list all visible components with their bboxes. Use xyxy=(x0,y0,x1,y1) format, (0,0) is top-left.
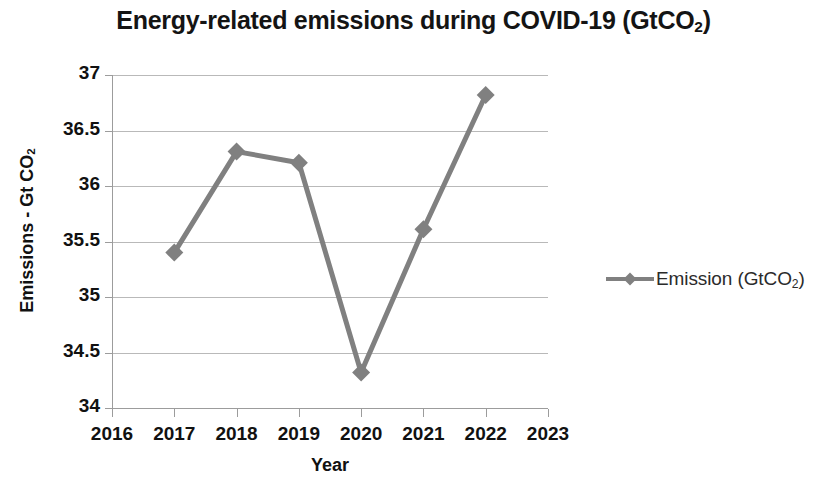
series-emission xyxy=(0,0,827,485)
series-line-emission xyxy=(174,95,485,373)
data-point-marker[interactable] xyxy=(352,363,370,381)
emissions-line-chart: Energy-related emissions during COVID-19… xyxy=(0,0,827,485)
data-point-marker[interactable] xyxy=(477,86,495,104)
legend-label-text: Emission (GtCO xyxy=(656,268,792,289)
legend-label-subscript: 2 xyxy=(792,277,799,291)
legend: Emission (GtCO2) xyxy=(604,268,805,291)
legend-label-tail: ) xyxy=(799,268,805,289)
data-point-marker[interactable] xyxy=(290,154,308,172)
legend-label-emission: Emission (GtCO2) xyxy=(656,268,805,291)
data-point-marker[interactable] xyxy=(414,220,432,238)
legend-marker-emission xyxy=(604,270,656,288)
legend-marker-icon xyxy=(604,270,656,288)
